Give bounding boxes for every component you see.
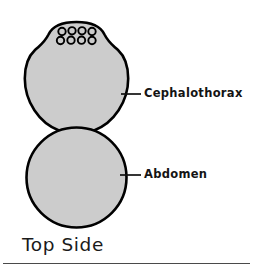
figure-container: Cephalothorax Abdomen Top Side	[0, 0, 253, 277]
eye-icon	[88, 37, 95, 44]
label-cephalothorax: Cephalothorax	[144, 88, 243, 100]
figure-caption: Top Side	[22, 236, 104, 255]
eye-icon	[67, 37, 74, 44]
eye-icon	[58, 28, 65, 35]
eye-icon	[88, 28, 95, 35]
label-abdomen: Abdomen	[144, 169, 207, 181]
abdomen-shape-group	[27, 128, 127, 228]
eye-icon	[68, 27, 75, 34]
abdomen-outline	[27, 128, 127, 228]
eye-icon	[78, 37, 85, 44]
bottom-divider	[3, 263, 250, 264]
cephalothorax-outline	[25, 22, 128, 133]
cephalothorax-shape-group	[25, 22, 128, 133]
eye-icon	[57, 37, 64, 44]
eye-icon	[78, 27, 85, 34]
